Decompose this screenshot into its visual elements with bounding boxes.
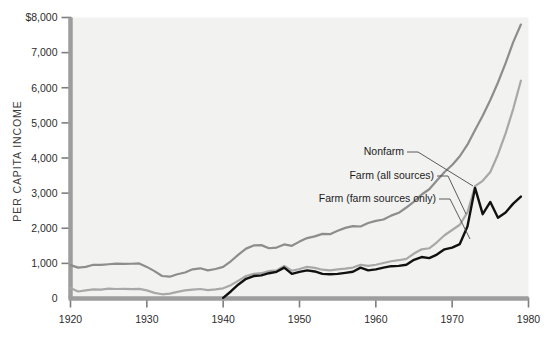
plot-background [71,18,529,299]
x-tick-label: 1970 [440,313,464,325]
annotation-label-nonfarm: Nonfarm [364,145,405,157]
y-tick-label: $8,000 [25,11,57,23]
line-chart: $8,0007,0006,0005,0004,0003,0002,0001,00… [0,0,547,338]
x-tick-label: 1930 [135,313,159,325]
x-tick-label: 1920 [59,313,83,325]
annotation-label-farm-sources-only: Farm (farm sources only) [319,192,436,204]
y-tick-label: 3,000 [31,187,57,199]
chart-figure: PER CAPITA INCOME $8,0007,0006,0005,0004… [0,0,547,338]
y-tick-label: 7,000 [31,46,57,58]
x-tick-label: 1980 [517,313,541,325]
x-tick-label: 1950 [288,313,312,325]
y-tick-label: 2,000 [31,222,57,234]
y-tick-label: 1,000 [31,257,57,269]
x-tick-label: 1940 [211,313,235,325]
y-tick-label: 5,000 [31,117,57,129]
y-tick-label: 4,000 [31,152,57,164]
x-tick-label: 1960 [364,313,388,325]
y-tick-label: 6,000 [31,82,57,94]
y-tick-label: 0 [52,292,58,304]
annotation-label-farm-all-sources: Farm (all sources) [349,169,434,181]
